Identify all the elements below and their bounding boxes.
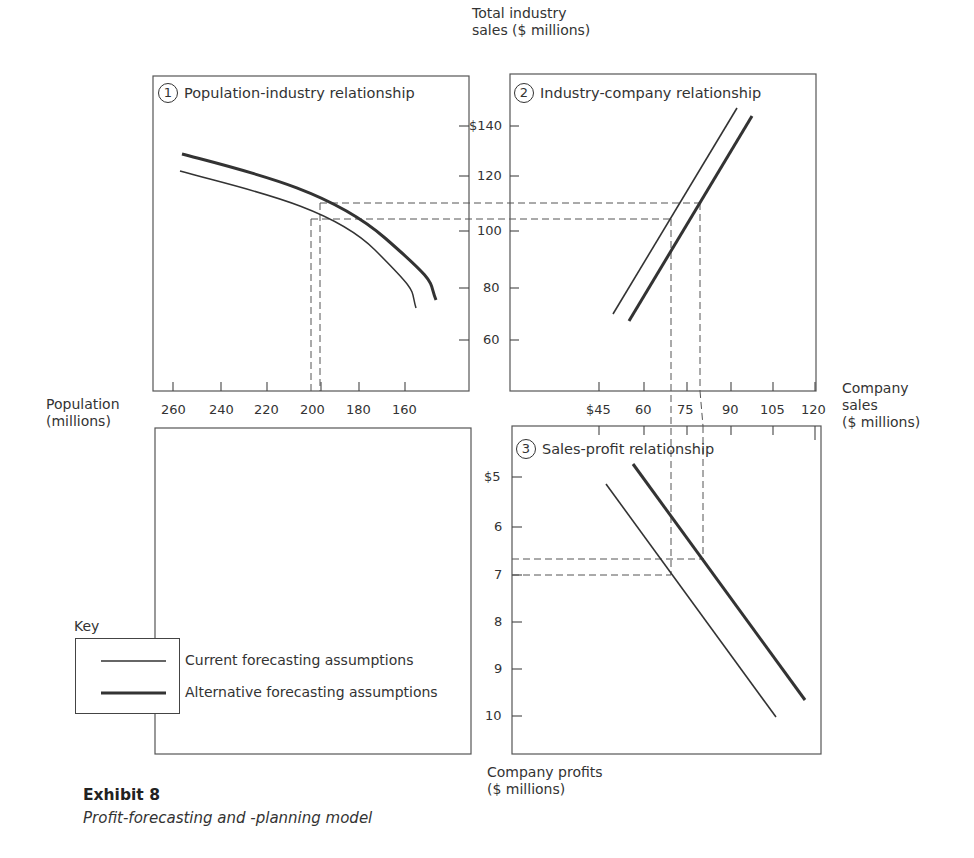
panel-3-title: 3 Sales-profit relationship: [516, 439, 714, 459]
tick-sales-120: 120: [801, 402, 826, 417]
tick-pop-240: 240: [209, 402, 234, 417]
industry-sales-label-line1: Total industry: [472, 5, 567, 21]
panel-2-current-line: [613, 108, 737, 314]
company-profits-ticks: [512, 477, 522, 716]
tick-pop-200: 200: [300, 402, 325, 417]
key-title: Key: [74, 618, 99, 634]
panel-3-current-line: [606, 484, 776, 717]
panel-3-alternative-line: [633, 464, 805, 700]
tick-pop-180: 180: [346, 402, 371, 417]
tick-profit-8: 8: [494, 614, 502, 629]
tick-profit-5: $5: [484, 469, 501, 484]
tick-profit-6: 6: [494, 519, 502, 534]
key-item-current: Current forecasting assumptions: [185, 652, 413, 668]
panel-2-frame: [510, 74, 816, 391]
population-label-line1: Population: [46, 396, 120, 412]
tick-profit-7: 7: [494, 567, 502, 582]
company-sales-label-line3: ($ millions): [842, 414, 920, 430]
key-box: [75, 638, 180, 714]
tick-industry-120: 120: [477, 168, 502, 183]
industry-sales-label-line2: sales ($ millions): [472, 22, 590, 38]
tick-pop-260: 260: [161, 402, 186, 417]
panel-1-title: 1 Population-industry relationship: [158, 83, 415, 103]
panel-1-alternative-curve: [182, 154, 436, 300]
panel-2-title: 2 Industry-company relationship: [514, 83, 761, 103]
tick-industry-60: 60: [483, 332, 500, 347]
tick-profit-9: 9: [494, 661, 502, 676]
company-profits-label-line1: Company profits: [487, 764, 603, 780]
key-item-alternative: Alternative forecasting assumptions: [185, 684, 438, 700]
company-profits-label-line2: ($ millions): [487, 781, 565, 797]
tick-industry-140: $140: [469, 118, 502, 133]
population-label-line2: (millions): [46, 413, 111, 429]
figure-caption: Profit-forecasting and -planning model: [83, 809, 372, 827]
panel-3-frame: [512, 426, 821, 754]
panel-2-title-text: Industry-company relationship: [540, 85, 761, 101]
tick-industry-80: 80: [483, 280, 500, 295]
panel-1-current-curve: [180, 171, 416, 308]
panel-2-number-badge: 2: [514, 83, 534, 103]
panel-3-number-badge: 3: [516, 439, 536, 459]
panel-3-title-text: Sales-profit relationship: [542, 441, 714, 457]
tick-pop-160: 160: [392, 402, 417, 417]
tick-sales-105: 105: [760, 402, 785, 417]
tick-sales-60: 60: [635, 402, 652, 417]
tick-industry-100: 100: [477, 223, 502, 238]
tick-sales-75: 75: [677, 402, 694, 417]
panel-1-title-text: Population-industry relationship: [184, 85, 415, 101]
company-sales-label-line1: Company: [842, 380, 909, 396]
panel-empty-frame: [155, 428, 471, 754]
exhibit-label: Exhibit 8: [83, 786, 160, 804]
tick-profit-10: 10: [485, 708, 502, 723]
tick-pop-220: 220: [254, 402, 279, 417]
tick-sales-90: 90: [722, 402, 739, 417]
tick-sales-45: $45: [586, 402, 611, 417]
population-ticks: [173, 382, 405, 391]
panel-1-number-badge: 1: [158, 83, 178, 103]
company-sales-label-line2: sales: [842, 397, 878, 413]
